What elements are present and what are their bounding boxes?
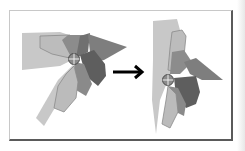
right-arrow-icon [113, 66, 142, 78]
before-state [22, 32, 127, 126]
after-state [152, 19, 223, 134]
before-pivot-icon [69, 54, 80, 65]
after-pivot-icon [163, 75, 174, 86]
rotation-diagram [0, 0, 245, 151]
